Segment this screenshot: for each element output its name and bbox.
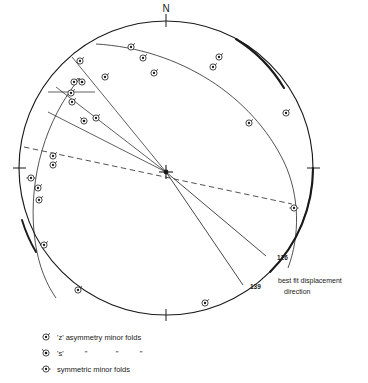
legend-label-symmetric: symmetric minor folds — [57, 365, 130, 374]
data-point — [140, 54, 147, 61]
stereonet-svg: N 126 139 best fit displacement directio… — [0, 0, 368, 383]
caption-line-1: best fit displacement — [278, 277, 342, 285]
great-circle-girdle-1 — [96, 44, 297, 268]
data-point — [69, 98, 76, 105]
data-point — [289, 205, 298, 211]
z-asymmetry-marker-icon — [43, 333, 50, 340]
data-point — [77, 57, 84, 64]
legend-ditto-2: " — [116, 349, 119, 358]
stereonet-figure: N 126 139 best fit displacement directio… — [0, 0, 368, 383]
legend-ditto-1: " — [85, 349, 88, 358]
data-point — [41, 241, 48, 248]
label-139: 139 — [250, 283, 261, 290]
radial-line-126 — [166, 172, 266, 256]
radial-line-139 — [166, 172, 243, 285]
legend-item-s-asymmetry: 's' " " " — [42, 349, 143, 358]
data-point — [216, 53, 223, 60]
data-point — [50, 161, 57, 168]
data-point — [80, 117, 87, 124]
data-point-group — [26, 43, 298, 306]
data-point — [50, 152, 57, 159]
data-point — [246, 119, 253, 126]
caption-line-2: direction — [284, 288, 311, 295]
symmetric-marker-icon — [41, 366, 50, 372]
data-point — [68, 89, 75, 96]
data-point — [26, 175, 35, 181]
legend-ditto-3: " — [140, 349, 143, 358]
data-point — [202, 299, 209, 306]
data-point — [71, 78, 78, 85]
legend-item-symmetric: symmetric minor folds — [41, 365, 130, 374]
primitive-circle-thick-ne — [236, 39, 284, 88]
center-marker — [159, 165, 173, 179]
s-asymmetry-marker-icon — [42, 349, 49, 356]
data-point — [102, 73, 109, 80]
data-point — [151, 69, 158, 76]
data-point — [283, 109, 290, 116]
data-point — [36, 196, 43, 203]
data-point — [35, 184, 42, 191]
legend-label-s: 's' — [57, 349, 64, 358]
primitive-circle-thick-sw — [22, 220, 36, 252]
data-point — [78, 78, 85, 85]
data-point — [75, 286, 82, 293]
legend-item-z-asymmetry: 'z' asymmetry minor folds — [43, 333, 141, 342]
dashed-displacement-line — [24, 147, 292, 204]
radial-line-nw-3 — [48, 112, 166, 172]
data-point — [210, 63, 217, 70]
north-label: N — [162, 3, 169, 14]
label-126: 126 — [277, 254, 288, 261]
legend: 'z' asymmetry minor folds 's' " " " symm… — [41, 333, 142, 374]
legend-label-z: 'z' asymmetry minor folds — [57, 333, 141, 342]
